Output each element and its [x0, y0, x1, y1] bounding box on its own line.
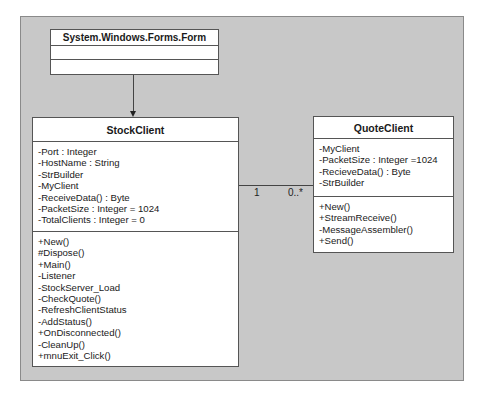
operation: +Send() — [319, 235, 453, 246]
class-form: System.Windows.Forms.Form — [50, 29, 219, 75]
class-quote-client: QuoteClient -MyClient -PacketSize : Inte… — [313, 116, 454, 253]
attribute: -RecieveData() : Byte — [319, 166, 453, 177]
source-multiplicity: 1 — [254, 187, 260, 198]
association-line — [239, 185, 313, 186]
attribute: -PacketSize : Integer =1024 — [319, 154, 453, 165]
operation: +StreamReceive() — [319, 212, 453, 223]
operation: #Dispose() — [38, 247, 238, 258]
attribute: -HostName : String — [38, 157, 238, 168]
inheritance-line — [133, 75, 134, 111]
operation: +New() — [38, 236, 238, 247]
operations-compartment: +New() #Dispose() +Main() -Listener -Sto… — [33, 232, 238, 366]
operations-compartment: +New() +StreamReceive() -MessageAssemble… — [314, 197, 453, 252]
attribute: -Port : Integer — [38, 146, 238, 157]
operation: -CheckQuote() — [38, 293, 238, 304]
attribute: -TotalClients : Integer = 0 — [38, 214, 238, 225]
operation: -AddStatus() — [38, 316, 238, 327]
target-multiplicity: 0..* — [288, 187, 303, 198]
attribute: -StrBuilder — [319, 177, 453, 188]
class-name: StockClient — [33, 118, 238, 142]
attributes-compartment — [51, 46, 218, 60]
operation: +New() — [319, 201, 453, 212]
attribute: -MyClient — [38, 180, 238, 191]
operation: -StockServer_Load — [38, 282, 238, 293]
attributes-compartment: -Port : Integer -HostName : String -StrB… — [33, 142, 238, 232]
attribute: -PacketSize : Integer = 1024 — [38, 203, 238, 214]
class-name: System.Windows.Forms.Form — [51, 30, 218, 46]
operations-compartment — [51, 60, 218, 74]
operation: -CleanUp() — [38, 339, 238, 350]
attribute: -ReceiveData() : Byte — [38, 192, 238, 203]
attribute: -StrBuilder — [38, 169, 238, 180]
class-stock-client: StockClient -Port : Integer -HostName : … — [32, 117, 239, 367]
operation: +OnDisconnected() — [38, 327, 238, 338]
class-name: QuoteClient — [314, 117, 453, 139]
operation: +mnuExit_Click() — [38, 350, 238, 361]
operation: +Main() — [38, 259, 238, 270]
attribute: -MyClient — [319, 143, 453, 154]
attributes-compartment: -MyClient -PacketSize : Integer =1024 -R… — [314, 139, 453, 197]
operation: -RefreshClientStatus — [38, 304, 238, 315]
operation: -MessageAssembler() — [319, 224, 453, 235]
operation: -Listener — [38, 270, 238, 281]
